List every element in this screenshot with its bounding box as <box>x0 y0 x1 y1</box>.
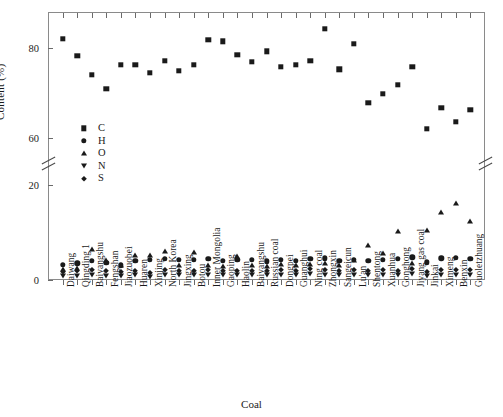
data-point-o <box>89 246 95 251</box>
data-point-o <box>365 243 371 248</box>
data-point-o <box>162 248 168 253</box>
x-tick-mark <box>179 280 180 285</box>
x-tick-mark <box>237 280 238 285</box>
x-tick-mark-top <box>208 13 209 18</box>
x-tick-mark-top <box>281 13 282 18</box>
data-point-n <box>205 272 211 277</box>
x-tick-mark-top <box>106 13 107 18</box>
x-tick-mark-top <box>427 13 428 18</box>
x-tick-mark <box>92 280 93 285</box>
data-point-c <box>424 126 429 131</box>
data-point-c <box>468 107 473 112</box>
data-point-c <box>176 68 181 73</box>
x-tick-mark-top <box>325 13 326 18</box>
data-point-o <box>118 263 124 268</box>
x-tick-mark-top <box>456 13 457 18</box>
x-tick-mark <box>368 280 369 285</box>
x-tick-mark-top <box>354 13 355 18</box>
x-tick-mark <box>296 280 297 285</box>
data-point-o <box>336 262 342 267</box>
x-tick-mark-top <box>135 13 136 18</box>
x-tick-mark <box>135 280 136 285</box>
y-tick-mark <box>48 185 53 186</box>
data-point-c <box>351 41 356 46</box>
data-point-c <box>249 59 254 64</box>
legend-marker-n-icon <box>81 164 87 169</box>
x-tick-mark-top <box>339 13 340 18</box>
data-point-c <box>264 48 269 53</box>
x-tick-mark-top <box>92 13 93 18</box>
data-point-o <box>380 251 386 256</box>
data-point-c <box>366 100 371 105</box>
x-tick-mark-top <box>150 13 151 18</box>
x-tick-mark <box>470 280 471 285</box>
y-axis-title: Content (%) <box>0 0 6 120</box>
data-point-o <box>147 252 153 257</box>
x-tick-label: Sangeicun <box>343 247 353 287</box>
data-point-o <box>438 210 444 215</box>
x-tick-label: Inner Mongolia <box>212 228 222 288</box>
data-point-c <box>337 66 342 71</box>
x-tick-mark <box>252 280 253 285</box>
y-tick-mark <box>48 280 53 281</box>
x-tick-mark-top <box>77 13 78 18</box>
legend-marker-c-icon <box>81 126 86 131</box>
x-tick-mark <box>194 280 195 285</box>
data-point-o <box>234 253 240 258</box>
x-tick-mark <box>106 280 107 285</box>
data-point-c <box>439 105 444 110</box>
x-tick-mark-top <box>470 13 471 18</box>
data-point-o <box>467 219 473 224</box>
x-tick-mark <box>441 280 442 285</box>
x-tick-mark-top <box>121 13 122 18</box>
x-tick-mark <box>63 280 64 285</box>
data-point-n <box>409 272 415 277</box>
data-point-o <box>409 260 415 265</box>
legend-marker-o-icon <box>81 151 87 156</box>
x-tick-mark-top <box>310 13 311 18</box>
data-point-c <box>235 52 240 57</box>
data-point-n <box>74 274 80 279</box>
x-tick-mark-top <box>194 13 195 18</box>
x-tick-mark <box>267 280 268 285</box>
legend-label: H <box>98 135 106 148</box>
x-tick-mark <box>398 280 399 285</box>
y-tick-mark <box>48 48 53 49</box>
data-point-o <box>453 201 459 206</box>
y-tick-label: 20 <box>15 180 39 191</box>
x-tick-mark <box>310 280 311 285</box>
x-tick-mark-top <box>398 13 399 18</box>
data-point-n <box>89 273 95 278</box>
y-tick-label: 0 <box>15 275 39 286</box>
x-tick-mark-top <box>223 13 224 18</box>
x-tick-mark <box>121 280 122 285</box>
x-tick-mark-top <box>179 13 180 18</box>
x-tick-mark-top <box>165 13 166 18</box>
data-point-c <box>322 26 327 31</box>
data-point-c <box>380 91 385 96</box>
x-tick-mark <box>223 280 224 285</box>
data-point-c <box>104 86 109 91</box>
x-tick-mark-top <box>296 13 297 18</box>
data-point-c <box>89 72 94 77</box>
x-tick-label: Guoletzhuang <box>474 234 484 287</box>
data-point-c <box>60 36 65 41</box>
x-axis-title: Coal <box>0 398 503 410</box>
x-tick-mark-top <box>63 13 64 18</box>
data-point-c <box>307 58 312 63</box>
x-tick-mark-top <box>252 13 253 18</box>
x-tick-mark <box>150 280 151 285</box>
x-tick-mark-top <box>441 13 442 18</box>
data-point-o <box>249 262 255 267</box>
x-tick-mark <box>383 280 384 285</box>
data-point-o <box>322 261 328 266</box>
data-point-c <box>409 64 414 69</box>
data-point-o <box>103 258 109 263</box>
data-point-c <box>206 37 211 42</box>
data-point-c <box>293 62 298 67</box>
data-point-o <box>191 250 197 255</box>
data-point-n <box>438 272 444 277</box>
y-tick-label: 80 <box>15 43 39 54</box>
y-tick-label: 60 <box>15 133 39 144</box>
legend-label: S <box>98 172 104 185</box>
